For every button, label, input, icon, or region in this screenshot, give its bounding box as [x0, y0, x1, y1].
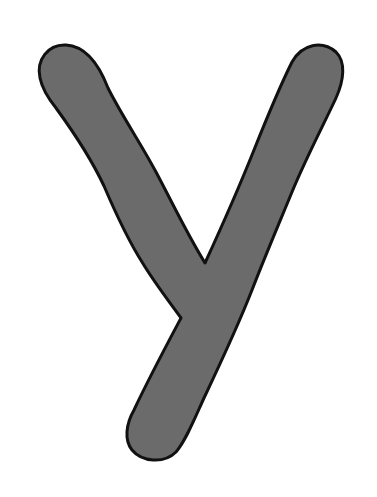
letter-y-outline [39, 45, 343, 460]
letter-y-shape [0, 0, 377, 497]
canvas: y [0, 0, 377, 497]
